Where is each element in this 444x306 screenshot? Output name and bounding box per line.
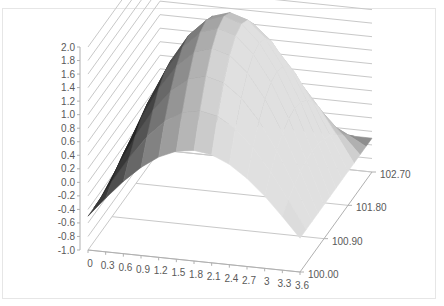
z-tick-label: -0.8 <box>58 231 76 242</box>
x-tick-label: 0.9 <box>136 264 150 275</box>
y-tick-label: 101.80 <box>356 202 387 213</box>
x-tick-label: 3 <box>264 276 270 287</box>
z-tick-label: 1.8 <box>61 55 75 66</box>
x-tick-label: 0 <box>87 258 93 269</box>
x-tick-label: 2.1 <box>207 271 221 282</box>
z-tick-label: 1.0 <box>61 109 75 120</box>
y-tick-label: 100.00 <box>308 269 339 280</box>
z-tick-label: 1.2 <box>61 96 75 107</box>
z-tick-label: 0.2 <box>61 163 75 174</box>
z-tick-label: 0.6 <box>61 136 75 147</box>
x-tick-label: 1.5 <box>171 267 185 278</box>
x-tick-label: 0.3 <box>101 260 115 271</box>
z-tick-label: 1.6 <box>61 69 75 80</box>
x-tick-label: 3.6 <box>295 280 309 291</box>
x-tick-label: 1.2 <box>154 265 168 276</box>
z-tick-label: 0.0 <box>61 177 75 188</box>
y-tick-label: 102.70 <box>380 169 411 180</box>
z-tick-label: 0.4 <box>61 150 75 161</box>
z-tick-label: 1.4 <box>61 82 75 93</box>
z-axis-labels: 2.01.81.61.41.21.00.80.60.40.20.0-0.2-0.… <box>58 42 80 256</box>
x-tick-label: 1.8 <box>189 269 203 280</box>
z-tick-label: 2.0 <box>61 42 75 53</box>
x-axis-labels: 00.30.60.91.21.51.82.12.42.733.33.6 <box>87 250 309 291</box>
y-tick-label: 100.90 <box>332 236 363 247</box>
x-tick-label: 0.6 <box>118 262 132 273</box>
z-tick-label: -0.2 <box>58 190 76 201</box>
surface-chart: 2.01.81.61.41.21.00.80.60.40.20.0-0.2-0.… <box>0 0 444 306</box>
z-tick-label: -1.0 <box>58 245 76 256</box>
x-tick-label: 2.4 <box>224 273 238 284</box>
x-tick-label: 2.7 <box>242 275 256 286</box>
z-tick-label: -0.4 <box>58 204 76 215</box>
surface-plot <box>88 13 372 239</box>
x-tick-label: 3.3 <box>277 278 291 289</box>
z-tick-label: 0.8 <box>61 123 75 134</box>
z-tick-label: -0.6 <box>58 217 76 228</box>
